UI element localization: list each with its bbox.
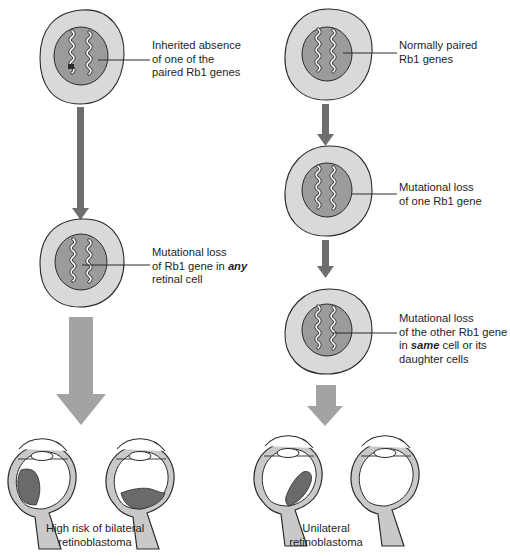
emphasis-any: any xyxy=(228,260,247,272)
label-line: Mutational loss xyxy=(399,312,507,326)
label-line: of one of the xyxy=(152,53,241,67)
label-line: of the other Rb1 gene xyxy=(399,326,507,340)
arrow-down-right-1 xyxy=(317,104,334,146)
label-normally-paired: Normally paired Rb1 genes xyxy=(399,39,477,66)
caption-line: High risk of bilateral xyxy=(20,522,170,536)
arrow-down-left-1 xyxy=(72,107,89,220)
label-text: cell or its xyxy=(439,339,486,351)
arrow-down-right-2 xyxy=(317,240,334,278)
label-loss-one-gene: Mutational loss of one Rb1 gene xyxy=(399,181,482,208)
emphasis-same: same xyxy=(411,339,440,351)
label-mutational-loss-any: Mutational loss of Rb1 gene in any retin… xyxy=(152,246,247,287)
cell-inherited-absence xyxy=(40,10,150,104)
arrow-down-left-2 xyxy=(56,317,106,425)
label-line: Rb1 genes xyxy=(399,53,477,67)
caption-bilateral: High risk of bilateral retinoblastoma xyxy=(20,522,170,549)
arrow-down-right-3 xyxy=(307,385,343,426)
label-text: of Rb1 gene in xyxy=(152,260,228,272)
cell-loss-one-gene xyxy=(285,146,397,236)
label-loss-other-gene: Mutational loss of the other Rb1 gene in… xyxy=(399,312,507,366)
cell-mutational-loss-any xyxy=(40,219,150,307)
label-line: of one Rb1 gene xyxy=(399,195,482,209)
label-line: retinal cell xyxy=(152,273,247,287)
caption-unilateral: Unilateral retinoblastoma xyxy=(266,522,386,549)
caption-line: retinoblastoma xyxy=(20,536,170,550)
label-line: in same cell or its xyxy=(399,339,507,353)
label-line: Normally paired xyxy=(399,39,477,53)
cell-loss-other-gene xyxy=(285,289,397,374)
cell-normally-paired xyxy=(285,9,397,100)
label-inherited-absence: Inherited absence of one of the paired R… xyxy=(152,39,241,80)
diagram-graphics xyxy=(0,0,510,556)
label-line: Mutational loss xyxy=(152,246,247,260)
caption-line: retinoblastoma xyxy=(266,536,386,550)
label-text: in xyxy=(399,339,411,351)
label-line: Mutational loss xyxy=(399,181,482,195)
retinoblastoma-diagram: Inherited absence of one of the paired R… xyxy=(0,0,510,556)
label-line: daughter cells xyxy=(399,353,507,367)
label-line: Inherited absence xyxy=(152,39,241,53)
caption-line: Unilateral xyxy=(266,522,386,536)
label-line: paired Rb1 genes xyxy=(152,66,241,80)
label-line: of Rb1 gene in any xyxy=(152,260,247,274)
